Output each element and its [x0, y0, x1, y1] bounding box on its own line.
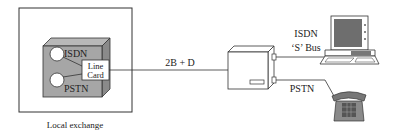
computer-terminal-icon — [320, 16, 379, 64]
pstn-port-icon — [50, 73, 64, 87]
exchange-isdn-label: ISDN — [64, 48, 87, 59]
telephone-icon — [332, 92, 366, 121]
isdn-diagram: ISDN PSTN Line Card Local exchange 2B + … — [0, 0, 394, 138]
link-label: 2B + D — [165, 57, 195, 68]
isdn-port-icon — [50, 47, 64, 61]
line-card-label-2: Card — [87, 70, 104, 80]
exchange-pstn-label: PSTN — [64, 83, 88, 94]
network-termination-box-icon — [228, 46, 276, 89]
customer-pstn-label: PSTN — [290, 83, 314, 94]
isdn-bus-label-1: ISDN — [294, 28, 317, 39]
isdn-bus-label-2: ‘S’ Bus — [291, 42, 321, 53]
local-exchange-caption: Local exchange — [47, 120, 104, 130]
